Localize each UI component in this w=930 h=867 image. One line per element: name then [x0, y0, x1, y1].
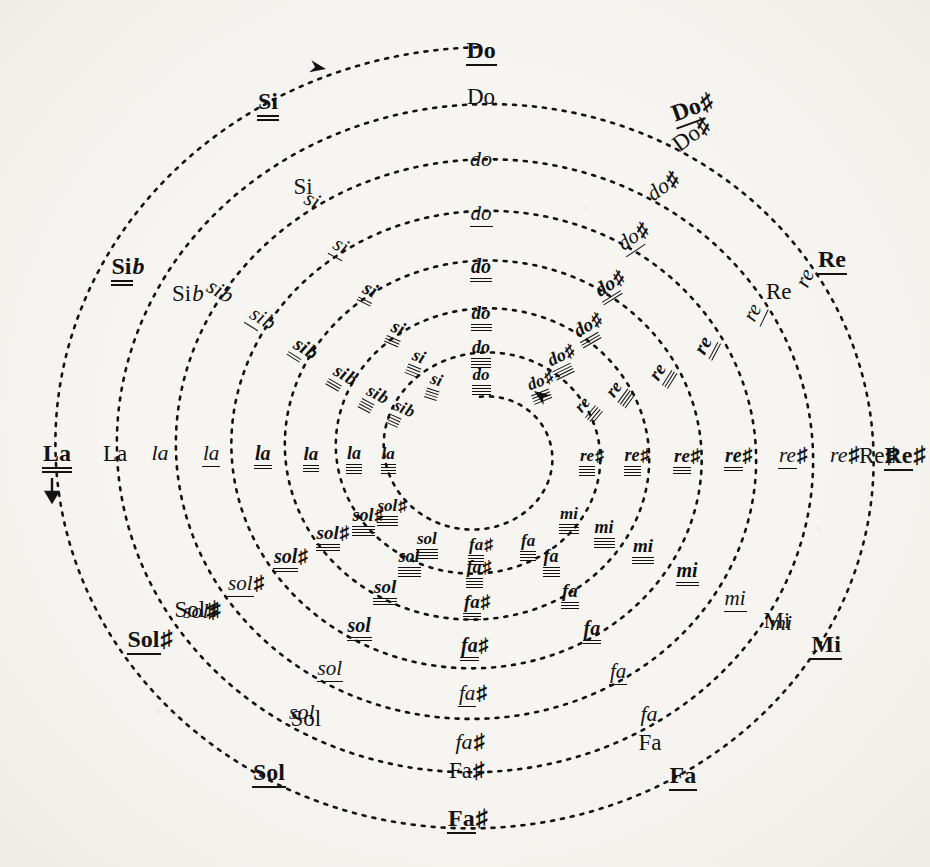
note-name: Sol [175, 598, 206, 621]
note-name: mi [560, 505, 578, 522]
note-name: fa [467, 558, 482, 576]
note-label: Sib [172, 282, 204, 305]
note-label: fa♯ [469, 536, 493, 553]
note-label: re♯ [580, 447, 604, 464]
sharp-icon: ♯ [472, 759, 485, 782]
note-name: Re [766, 280, 792, 303]
sharp-icon: ♯ [848, 444, 860, 466]
note-name: Re [818, 247, 846, 271]
note-label: mi [560, 505, 578, 522]
octave-ledger-lines [616, 388, 625, 400]
octave-ledger-lines [661, 369, 669, 382]
sharp-icon: ♯ [640, 446, 650, 464]
octave-ledger-lines [410, 362, 421, 367]
note-name: Sol [253, 760, 285, 784]
note-name: fa [464, 592, 480, 611]
note-label: Fa♯ [448, 806, 488, 830]
note-label: re♯ [830, 444, 860, 466]
note-name: do [472, 338, 490, 356]
note-label: do [472, 303, 491, 322]
sharp-icon: ♯ [482, 558, 492, 576]
sharp-icon: ♯ [483, 536, 493, 553]
note-name: sol [353, 506, 374, 524]
note-name: sol [228, 573, 253, 594]
octave-ledger-lines [428, 385, 439, 389]
note-name: mi [677, 560, 698, 580]
note-label: Mi [764, 609, 791, 632]
note-name: sol [318, 658, 343, 679]
note-label: Do [467, 38, 496, 62]
note-name: Re [885, 443, 913, 467]
note-name: sol [399, 547, 420, 565]
note-label: la [152, 442, 169, 464]
note-label: Do [467, 85, 495, 108]
octave-ledger-lines [391, 412, 401, 417]
note-label: Sol [291, 707, 322, 730]
note-label: Fa♯ [449, 759, 485, 782]
note-name: mi [725, 588, 746, 609]
note-label: sol♯ [228, 573, 264, 594]
note-label: Re [818, 247, 846, 271]
note-name: re [625, 446, 640, 464]
sharp-icon: ♯ [690, 446, 701, 465]
note-label: Sol♯ [175, 598, 218, 621]
note-name: fa [641, 703, 658, 725]
sharp-icon: ♯ [912, 443, 925, 467]
note-name: fa [584, 618, 601, 638]
note-label: Mi [812, 632, 841, 656]
note-label: Si [294, 175, 313, 198]
note-label: la [304, 444, 319, 463]
note-name: Sol [291, 707, 322, 730]
note-name: fa [521, 532, 535, 549]
sharp-icon: ♯ [742, 445, 753, 465]
sharp-icon: ♯ [480, 592, 491, 611]
note-label: Fa [670, 763, 697, 787]
note-name: La [43, 441, 71, 465]
note-name: La [103, 442, 127, 465]
note-label: fa♯ [459, 683, 487, 704]
note-label: Sib [112, 254, 145, 278]
note-label: sol [399, 547, 420, 565]
note-label: sol [318, 658, 343, 679]
note-label: sol♯ [274, 546, 308, 566]
note-name: mi [633, 536, 653, 555]
note-name: sol [348, 615, 371, 635]
note-name: fa [544, 547, 559, 565]
note-label: Si [258, 89, 278, 113]
note-name: Fa [448, 806, 475, 830]
note-name: fa [456, 731, 473, 753]
note-name: do [470, 148, 492, 170]
note-name: do [471, 256, 491, 276]
note-label: fa♯ [467, 558, 492, 576]
note-label: re♯ [779, 445, 807, 466]
note-label: la [347, 444, 361, 462]
note-name: fa [469, 536, 483, 553]
spiral-path [55, 47, 873, 828]
octave-ledger-lines [584, 404, 593, 415]
note-name: Si [294, 175, 313, 198]
sharp-icon: ♯ [297, 546, 308, 566]
arrow-head-outer [309, 60, 327, 75]
note-label: Fa [639, 731, 662, 754]
note-label: mi [725, 588, 746, 609]
note-name: Mi [764, 609, 791, 632]
note-name: la [347, 444, 361, 462]
octave-ledger-lines [707, 342, 715, 357]
note-name: Fa [449, 759, 472, 782]
sharp-icon: ♯ [374, 506, 384, 524]
note-name: sol [274, 546, 297, 566]
note-label: Sol♯ [128, 627, 173, 651]
note-name: la [304, 444, 319, 463]
sharp-icon: ♯ [253, 573, 265, 594]
sharp-icon: ♯ [339, 523, 350, 542]
note-label: do [471, 256, 491, 276]
note-name: fa [562, 581, 578, 600]
note-label: mi [633, 536, 653, 555]
note-label: La [43, 441, 71, 465]
note-name: la [255, 443, 271, 463]
note-label: do [471, 203, 492, 224]
octave-ledger-lines [580, 330, 596, 340]
sharp-icon: ♯ [397, 497, 407, 514]
sharp-icon: ♯ [205, 598, 218, 621]
note-label: re♯ [725, 445, 753, 465]
